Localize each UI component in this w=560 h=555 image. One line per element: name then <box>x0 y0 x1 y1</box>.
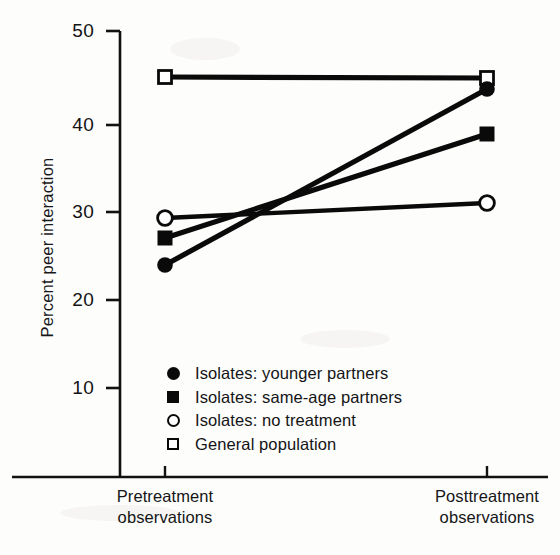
marker-open-circle-post <box>480 196 495 211</box>
x-tick-label-pretreatment: Pretreatment observations <box>65 486 265 527</box>
legend-item-isolates-no-treatment: Isolates: no treatment <box>167 409 402 433</box>
marker-filled-circle-pre <box>157 257 173 273</box>
marker-filled-square-post <box>480 127 495 142</box>
series-isolates-same-age-partners <box>158 127 495 246</box>
y-axis-ticks <box>106 31 120 388</box>
marker-filled-square-pre <box>158 231 173 246</box>
x-tick-label-pretreatment-line1: Pretreatment <box>65 486 265 507</box>
series-isolates-younger-partners <box>157 81 495 273</box>
filled-square-icon <box>167 391 189 403</box>
y-tick-label-50: 50 <box>48 20 94 42</box>
series-isolates-no-treatment <box>158 196 495 226</box>
marker-open-square-pre <box>159 71 172 84</box>
legend-label-general-population: General population <box>195 435 336 454</box>
open-square-icon <box>167 438 189 450</box>
series-general-population <box>159 71 494 85</box>
legend-item-general-population: General population <box>167 433 402 457</box>
x-tick-label-posttreatment: Posttreatment observations <box>387 486 560 527</box>
x-tick-label-posttreatment-line2: observations <box>387 507 560 528</box>
y-tick-label-20: 20 <box>48 289 94 311</box>
legend-item-isolates-same-age-partners: Isolates: same-age partners <box>167 386 402 410</box>
y-tick-label-40: 40 <box>48 114 94 136</box>
legend-label-isolates-same-age-partners: Isolates: same-age partners <box>195 388 402 407</box>
x-axis-ticks <box>165 466 487 477</box>
marker-open-circle-pre <box>158 211 173 226</box>
chart-figure: Percent peer interaction 50 40 30 20 10 … <box>0 0 560 555</box>
legend-label-isolates-younger-partners: Isolates: younger partners <box>195 364 388 383</box>
y-tick-label-10: 10 <box>48 377 94 399</box>
open-circle-icon <box>167 414 189 427</box>
x-tick-label-pretreatment-line2: observations <box>65 507 265 528</box>
filled-circle-icon <box>167 367 189 380</box>
plot-area <box>0 0 560 555</box>
y-axis-title: Percent peer interaction <box>38 118 57 378</box>
y-tick-label-30: 30 <box>48 201 94 223</box>
legend-label-isolates-no-treatment: Isolates: no treatment <box>195 411 356 430</box>
marker-filled-circle-post <box>479 81 495 97</box>
x-tick-label-posttreatment-line1: Posttreatment <box>387 486 560 507</box>
legend-item-isolates-younger-partners: Isolates: younger partners <box>167 362 402 386</box>
chart-legend: Isolates: younger partners Isolates: sam… <box>167 362 402 456</box>
